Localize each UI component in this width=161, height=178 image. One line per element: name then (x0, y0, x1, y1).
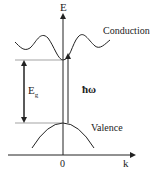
photon-energy-label: ħω (82, 83, 96, 95)
bandgap-label: Eg (28, 84, 39, 99)
band-diagram: E k 0 Conduction Valence Eg ħω (0, 0, 161, 178)
k-axis-label: k (123, 157, 129, 169)
valence-label: Valence (91, 122, 123, 133)
conduction-label: Conduction (103, 25, 150, 36)
energy-axis-label: E (60, 1, 67, 13)
origin-label: 0 (60, 158, 65, 169)
